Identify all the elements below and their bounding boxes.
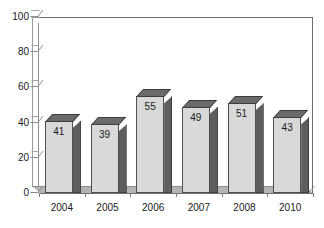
bar-chart: 020406080100 413955495143 20042005200620… (0, 0, 324, 228)
x-axis-tick-mark (313, 193, 314, 197)
axis-front-wall (38, 23, 39, 193)
bar-side-face (256, 103, 264, 193)
x-axis-tick-mark (130, 193, 131, 197)
axis-back-wall (32, 17, 33, 187)
bar-value-label: 39 (91, 130, 119, 140)
bar[interactable]: 43 (273, 117, 301, 193)
bar[interactable]: 41 (45, 121, 73, 193)
x-axis-tick-mark (267, 193, 268, 197)
bar-value-label: 43 (273, 123, 301, 133)
x-axis-tick-mark (39, 193, 40, 197)
bar-side-face (210, 107, 218, 193)
x-axis-category-label: 2010 (267, 202, 313, 213)
x-axis-tick-mark (176, 193, 177, 197)
x-axis-category-label: 2005 (85, 202, 131, 213)
bar-value-label: 41 (45, 127, 73, 137)
bar[interactable]: 51 (228, 103, 256, 193)
bar[interactable]: 39 (91, 124, 119, 193)
bar-side-face (164, 96, 172, 193)
x-axis-category-label: 2004 (39, 202, 85, 213)
bar[interactable]: 49 (182, 107, 210, 193)
bar-side-face (119, 124, 127, 193)
x-axis-tick-mark (85, 193, 86, 197)
x-axis-category-label: 2007 (176, 202, 222, 213)
bar-value-label: 49 (182, 113, 210, 123)
x-axis-category-label: 2008 (222, 202, 268, 213)
x-axis-tick-mark (222, 193, 223, 197)
bar[interactable]: 55 (136, 96, 164, 193)
bar-value-label: 51 (228, 109, 256, 119)
bar-side-face (301, 117, 309, 193)
x-axis-category-label: 2006 (130, 202, 176, 213)
y-axis-tick-label: 0 (1, 188, 29, 198)
y-axis: 020406080100 (0, 0, 29, 228)
bar-value-label: 55 (136, 102, 164, 112)
bar-side-face (73, 121, 81, 193)
